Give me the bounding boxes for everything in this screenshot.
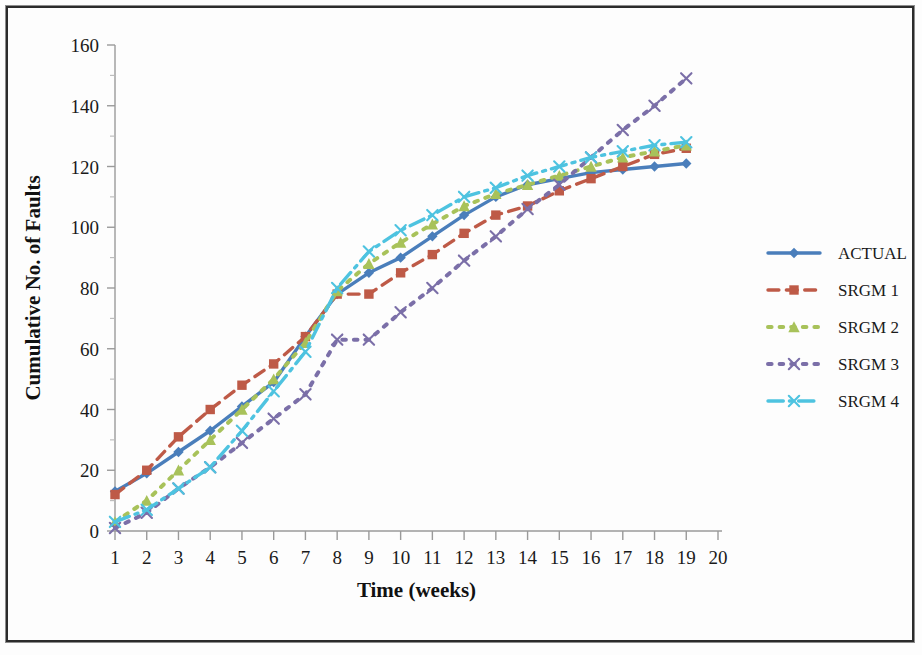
x-tick-label: 12 [455, 547, 474, 568]
y-tick-label: 40 [80, 400, 99, 421]
data-point-marker [789, 285, 798, 294]
axes-layer [107, 45, 722, 540]
x-tick-label: 3 [174, 547, 184, 568]
legend-label: ACTUAL [838, 244, 907, 263]
data-point-marker [237, 381, 246, 390]
data-point-marker [396, 268, 405, 277]
y-tick-label: 140 [71, 96, 100, 117]
legend-entry-srgm-3[interactable] [768, 359, 820, 369]
data-point-marker [459, 229, 468, 238]
data-point-marker [173, 483, 183, 493]
chart-svg: 0204060801001201401601234567891011121314… [0, 0, 922, 655]
series-srgm-4 [110, 137, 692, 527]
series-line [115, 145, 686, 522]
y-tick-label: 120 [71, 157, 100, 178]
data-point-marker [364, 246, 374, 256]
data-point-marker [268, 386, 278, 396]
data-point-marker [364, 289, 373, 298]
y-tick-label: 160 [71, 35, 100, 56]
series-srgm-2 [109, 140, 692, 528]
data-point-marker [206, 405, 215, 414]
data-point-marker [681, 158, 691, 168]
series-srgm-1 [110, 144, 691, 500]
x-axis-title: Time (weeks) [357, 578, 476, 602]
x-tick-label: 7 [301, 547, 311, 568]
series-actual [110, 158, 692, 496]
x-tick-label: 20 [709, 547, 728, 568]
x-tick-label: 1 [110, 547, 120, 568]
y-axis-title: Cumulative No. of Faults [21, 175, 45, 400]
legend-entry-srgm-2[interactable] [768, 321, 820, 332]
x-tick-label: 17 [613, 547, 632, 568]
x-tick-label: 18 [645, 547, 664, 568]
data-point-marker [395, 307, 405, 317]
data-point-marker [110, 490, 119, 499]
data-point-marker [459, 255, 469, 265]
y-tick-label: 20 [80, 460, 99, 481]
y-tick-label: 80 [80, 278, 99, 299]
data-point-marker [269, 359, 278, 368]
data-point-marker [205, 462, 215, 472]
x-tick-label: 2 [142, 547, 152, 568]
x-tick-label: 8 [332, 547, 342, 568]
x-tick-label: 15 [550, 547, 569, 568]
data-point-marker [618, 125, 628, 135]
x-tick-label: 6 [269, 547, 279, 568]
data-point-marker [237, 426, 247, 436]
data-point-marker [491, 210, 500, 219]
legend-label: SRGM 4 [838, 392, 899, 411]
y-tick-label: 0 [90, 521, 100, 542]
x-tick-label: 5 [237, 547, 247, 568]
x-tick-label: 11 [423, 547, 441, 568]
legend-entry-srgm-4[interactable] [768, 396, 820, 406]
data-point-marker [649, 161, 659, 171]
series-line [115, 142, 686, 522]
y-tick-label: 60 [80, 339, 99, 360]
x-tick-label: 19 [677, 547, 696, 568]
legend-entry-actual[interactable] [768, 248, 820, 258]
data-point-marker [427, 283, 437, 293]
series-layer [109, 73, 692, 533]
data-point-marker [649, 101, 659, 111]
data-point-marker [142, 466, 151, 475]
data-point-marker [173, 465, 184, 476]
series-srgm-3 [110, 73, 692, 533]
data-point-marker [174, 432, 183, 441]
x-tick-label: 10 [391, 547, 410, 568]
figure-root: 0204060801001201401601234567891011121314… [0, 0, 922, 655]
legend-label: SRGM 1 [838, 281, 899, 300]
legend-label: SRGM 3 [838, 355, 899, 374]
series-line [115, 78, 686, 528]
data-point-marker [789, 248, 799, 258]
data-point-marker [237, 438, 247, 448]
x-tick-label: 16 [582, 547, 601, 568]
x-tick-label: 9 [364, 547, 374, 568]
x-tick-label: 4 [205, 547, 215, 568]
legend-label: SRGM 2 [838, 318, 899, 337]
legend-layer: ACTUALSRGM 1SRGM 2SRGM 3SRGM 4 [768, 244, 907, 411]
data-point-marker [300, 347, 310, 357]
legend-entry-srgm-1[interactable] [768, 285, 820, 294]
x-tick-label: 14 [518, 547, 538, 568]
series-line [115, 163, 686, 491]
chart-area: 0204060801001201401601234567891011121314… [0, 0, 922, 655]
data-point-marker [618, 162, 627, 171]
data-point-marker [141, 495, 152, 506]
data-point-marker [491, 231, 501, 241]
data-point-marker [586, 174, 595, 183]
y-tick-label: 100 [71, 217, 100, 238]
data-point-marker [268, 413, 278, 423]
data-point-marker [681, 73, 691, 83]
series-line [115, 148, 686, 494]
x-tick-label: 13 [486, 547, 505, 568]
data-point-marker [428, 250, 437, 259]
